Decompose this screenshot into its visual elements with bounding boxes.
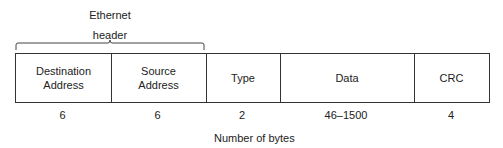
field-type: Type xyxy=(206,54,280,102)
field-label: Destination xyxy=(36,64,91,78)
bytes-destination: 6 xyxy=(15,108,110,122)
field-label: Data xyxy=(335,71,358,85)
field-crc: CRC xyxy=(414,54,489,102)
field-source-address: Source Address xyxy=(111,54,206,102)
bytes-source: 6 xyxy=(110,108,205,122)
bytes-type: 2 xyxy=(205,108,279,122)
field-label: CRC xyxy=(440,71,464,85)
field-label: Address xyxy=(36,78,91,92)
frame-diagram: Destination Address Source Address Type … xyxy=(15,53,490,103)
field-label: Address xyxy=(138,78,178,92)
bytes-data: 46–1500 xyxy=(279,108,413,122)
field-destination-address: Destination Address xyxy=(16,54,111,102)
field-data: Data xyxy=(280,54,414,102)
field-label: Type xyxy=(231,71,255,85)
caption: Number of bytes xyxy=(214,131,295,145)
bytes-crc: 4 xyxy=(413,108,489,122)
field-label: Source xyxy=(138,64,178,78)
